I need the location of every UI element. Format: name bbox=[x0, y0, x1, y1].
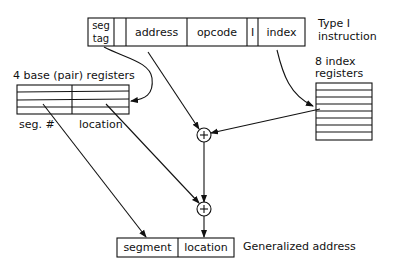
seg-tag-field: seg bbox=[88, 18, 114, 32]
location-field: location bbox=[178, 238, 234, 257]
index-registers-title-line2: registers bbox=[315, 68, 363, 80]
index-field: index bbox=[258, 18, 305, 46]
address-generation-diagram: seg tag address opcode I index Type I in… bbox=[0, 0, 399, 273]
instruction-caption-line2: instruction bbox=[318, 31, 377, 43]
address-field: address bbox=[126, 18, 187, 46]
generalized-address-caption: Generalized address bbox=[243, 241, 356, 253]
instruction-caption-line1: Type I bbox=[318, 18, 350, 30]
opcode-field: opcode bbox=[187, 18, 247, 46]
indirect-field: I bbox=[247, 18, 258, 46]
seg-tag-field-line2: tag bbox=[88, 31, 114, 45]
segment-field: segment bbox=[117, 238, 178, 257]
base-registers-title: 4 base (pair) registers bbox=[13, 70, 135, 82]
seg-number-label: seg. # bbox=[19, 119, 55, 131]
location-label: location bbox=[79, 119, 123, 131]
